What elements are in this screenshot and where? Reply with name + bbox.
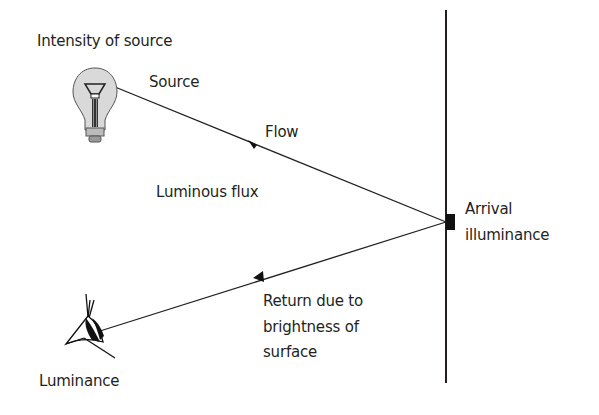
intensity-of-source-label: Intensity of source xyxy=(37,31,172,51)
return-ray xyxy=(100,222,446,331)
luminance-label: Luminance xyxy=(39,371,119,391)
return-label-line1: Return due to xyxy=(263,291,363,311)
eye-icon xyxy=(66,294,115,358)
return-label-line2: brightness of xyxy=(263,317,359,337)
flow-label: Flow xyxy=(265,122,298,142)
flow-arrowhead xyxy=(248,140,257,149)
return-label-line3: surface xyxy=(263,342,317,362)
light-bulb-icon xyxy=(73,68,117,142)
return-arrowhead xyxy=(253,271,264,282)
illuminance-label: illuminance xyxy=(465,225,549,245)
luminous-flux-label: Luminous flux xyxy=(156,182,258,202)
receiver-block xyxy=(446,214,455,230)
source-label: Source xyxy=(149,72,199,92)
arrival-label: Arrival xyxy=(465,199,512,219)
